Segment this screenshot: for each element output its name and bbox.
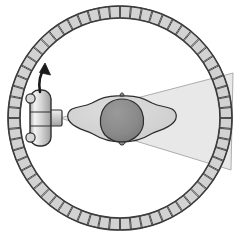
- detector-segment: [120, 218, 130, 230]
- patient-superior-nub: [120, 93, 124, 96]
- detector-segment: [130, 7, 141, 20]
- detector-segment: [110, 218, 120, 230]
- detector-segment: [9, 97, 22, 108]
- detector-segment: [218, 97, 231, 108]
- detector-segment: [8, 108, 20, 118]
- tube-mount-knob-bottom: [26, 133, 35, 142]
- detector-segment: [9, 128, 22, 139]
- detector-segment: [120, 6, 130, 18]
- detector-segment: [99, 216, 110, 229]
- detector-segment: [218, 128, 231, 139]
- detector-segment: [220, 108, 232, 118]
- ct-scanner-figure: CT scanner gantry cross-section Circular…: [0, 0, 248, 242]
- patient-inferior-nub: [119, 142, 125, 145]
- detector-segment: [130, 216, 141, 229]
- detector-segment: [110, 6, 120, 18]
- detector-segment: [220, 118, 232, 128]
- detector-segment: [8, 118, 20, 128]
- tube-mount-knob-top: [26, 94, 35, 103]
- scanner-diagram-canvas: [0, 0, 248, 242]
- patient-organ-mass: [100, 99, 143, 142]
- detector-segment: [99, 7, 110, 20]
